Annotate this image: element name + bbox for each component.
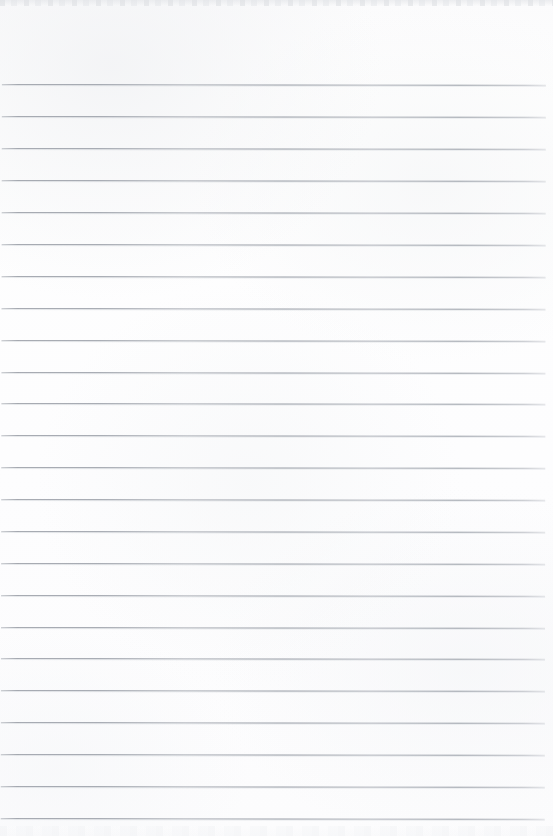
notebook-page bbox=[0, 0, 553, 836]
page-content-text bbox=[0, 0, 553, 836]
